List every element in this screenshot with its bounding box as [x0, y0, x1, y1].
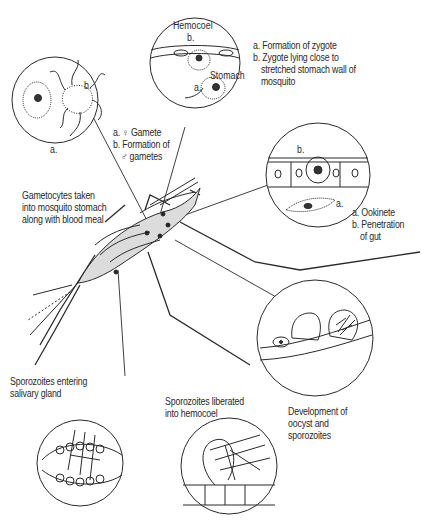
- inset-hemocoel: [181, 418, 277, 514]
- label-stomach: Stomach: [210, 70, 245, 81]
- inset-gametes: [12, 57, 105, 143]
- label-b-ookinete: b.: [297, 144, 304, 155]
- label-b-gametes: b.: [84, 80, 91, 91]
- inset-zygote: [150, 18, 240, 108]
- caption-salivary: Sporozoites entering salivary gland: [10, 376, 87, 400]
- caption-hemocoel: Sporozoites liberated into hemocoel: [165, 396, 244, 420]
- caption-ookinete: a. Ookinete b. Penetration of gut: [352, 207, 404, 243]
- caption-gametocytes: Gametocytes taken into mosquito stomach …: [22, 190, 106, 226]
- label-hemocoel-inset: Hemocoel: [173, 20, 213, 31]
- label-a-gametes: a.: [50, 144, 57, 155]
- caption-oocyst: Development of oocyst and sporozoites: [288, 406, 347, 442]
- caption-zygote: a. Formation of zygote b. Zygote lying c…: [253, 40, 356, 88]
- inset-salivary: [37, 420, 123, 506]
- label-b-zygote: b.: [187, 32, 194, 43]
- caption-gametes: a. ♀ Gamete b. Formation of ♂ gametes: [113, 127, 170, 163]
- label-a-zygote: a.: [194, 82, 201, 93]
- label-a-ookinete: a.: [336, 198, 343, 209]
- inset-oocyst: [257, 280, 373, 396]
